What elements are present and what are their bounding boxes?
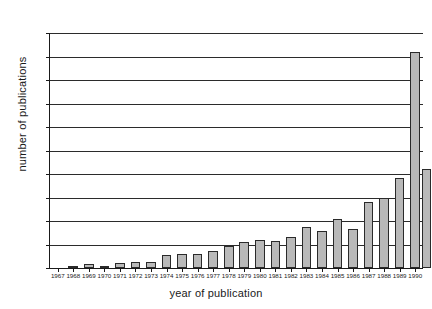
bar bbox=[177, 254, 187, 268]
x-axis-title: year of publication bbox=[0, 287, 432, 299]
bar bbox=[410, 52, 420, 268]
x-tick-label: 1990 bbox=[405, 272, 425, 279]
bar bbox=[193, 254, 203, 268]
bar bbox=[379, 198, 389, 269]
bar bbox=[395, 178, 405, 268]
y-tick-mark bbox=[46, 268, 50, 269]
bar bbox=[162, 255, 172, 268]
plot-area: 050100150200250300350400450500 196719681… bbox=[49, 33, 423, 269]
bar bbox=[348, 229, 358, 268]
bar-chart: number of publications year of publicati… bbox=[0, 0, 432, 309]
bar bbox=[255, 240, 265, 268]
bar bbox=[317, 231, 327, 268]
y-axis-title: number of publications bbox=[16, 24, 28, 204]
bar bbox=[208, 251, 218, 268]
bar bbox=[286, 237, 296, 268]
bar bbox=[224, 246, 234, 268]
bar bbox=[302, 227, 312, 268]
bar bbox=[239, 242, 249, 268]
bar bbox=[364, 202, 374, 268]
bar bbox=[333, 219, 343, 268]
bar bbox=[271, 241, 281, 268]
bar bbox=[422, 169, 432, 268]
bar-series bbox=[50, 33, 423, 268]
